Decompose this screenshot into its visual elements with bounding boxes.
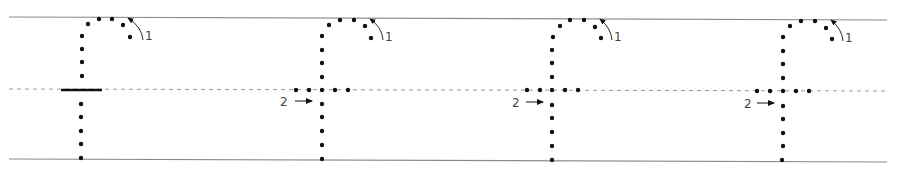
- stem-dots: [79, 47, 84, 160]
- top-guide-line: [9, 17, 887, 20]
- stroke-2-label: 2: [744, 97, 752, 111]
- bottom-guide-line: [9, 159, 887, 162]
- stroke-1-label: 1: [845, 31, 853, 45]
- stroke-1-label: 1: [385, 30, 393, 44]
- letter-f-glyph-3: 1 2: [512, 18, 622, 162]
- stroke-2-label: 2: [280, 95, 288, 109]
- stroke-1-label: 1: [145, 29, 153, 43]
- letter-f-glyph-2: 1 2: [280, 18, 393, 161]
- stroke-1-label: 1: [614, 30, 622, 44]
- handwriting-worksheet: 1 1 2 1 2 1 2: [0, 0, 913, 177]
- letter-f-glyph-1: 1: [61, 17, 153, 160]
- hook-dots: [80, 17, 132, 39]
- stroke-2-label: 2: [512, 96, 520, 110]
